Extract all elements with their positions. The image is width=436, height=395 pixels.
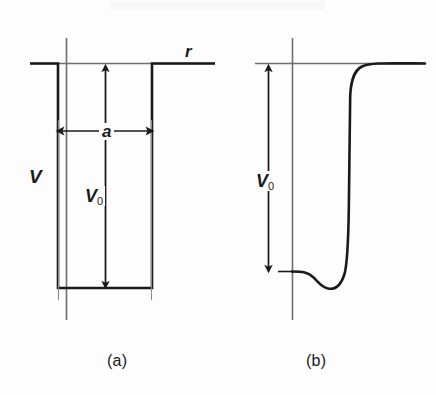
panel-b-rounded-well-curve xyxy=(292,63,425,288)
label-V0-panel-b-base: V xyxy=(256,171,268,191)
caption-panel-b: (b) xyxy=(306,352,326,370)
label-V0-panel-a-subscript: 0 xyxy=(97,195,103,207)
label-r-axis: r xyxy=(185,43,192,60)
potential-well-figure: r a V V0 V0 (a) (b) xyxy=(0,0,436,395)
label-V-axis: V xyxy=(29,167,42,186)
panel-b xyxy=(255,38,425,320)
figure-canvas xyxy=(0,0,436,395)
panel-a-square-well-curve xyxy=(30,64,215,289)
label-V0-panel-a: V0 xyxy=(83,186,105,206)
label-a-width: a xyxy=(99,123,114,140)
label-V0-panel-b-subscript: 0 xyxy=(268,180,274,192)
label-V0-panel-a-base: V xyxy=(85,186,97,206)
label-V0-panel-b: V0 xyxy=(254,171,276,191)
panel-a xyxy=(30,38,215,320)
caption-panel-a: (a) xyxy=(107,352,127,370)
